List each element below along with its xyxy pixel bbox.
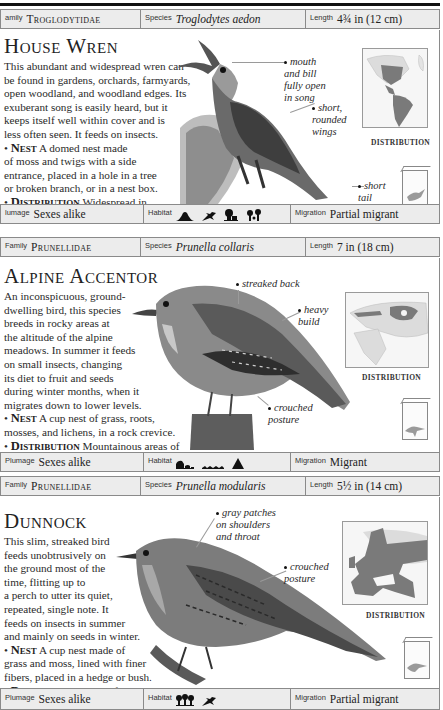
plumage-value: Sexes alike [39, 693, 91, 705]
length-value: 5½ in (14 cm) [337, 480, 402, 492]
migration-cell: Migration Migrant [291, 453, 439, 471]
field-guide-book-icon [404, 641, 430, 679]
habitat-cell: Habitat [144, 453, 291, 471]
migration-label: Migration [295, 693, 326, 702]
field-guide-book-icon [402, 170, 428, 208]
nest-label: Nest [11, 643, 37, 657]
family-value: Prunellidae [31, 480, 91, 492]
entry-alpine-accentor: Alpine Accentor An inconspicuous, ground… [0, 258, 440, 452]
species-value: Prunella modularis [176, 480, 266, 492]
migration-cell: Migration Partial migrant [291, 205, 439, 223]
top-rule [0, 3, 440, 6]
grassland-icon [202, 463, 224, 469]
family-label: Family [5, 480, 27, 489]
migration-value: Partial migrant [330, 208, 399, 220]
scrub-icon [202, 211, 216, 221]
entry-header-dunnock: Family Prunellidae Species Prunella modu… [0, 476, 440, 496]
callout-heavy-build: heavy build [298, 304, 328, 328]
family-label: Family [5, 241, 27, 250]
length-value: 4¾ in (12 cm) [337, 13, 402, 25]
family-cell: Family Prunellidae [1, 238, 141, 256]
species-cell: Species Troglodytes aedon [141, 10, 306, 28]
habitat-label: Habitat [148, 456, 172, 465]
callout-tail: short tail [358, 180, 386, 204]
length-label: Length [310, 480, 333, 489]
species-value: Troglodytes aedon [176, 13, 261, 25]
distribution-map-americas [362, 48, 428, 128]
distribution-label: DISTRIBUTION [366, 611, 425, 620]
woodland-edge-icon [246, 209, 262, 221]
habitat-label: Habitat [148, 693, 172, 702]
field-guide-book-icon [402, 402, 428, 440]
plumage-value: Sexes alike [34, 208, 86, 220]
distribution-map-eurasia-africa [345, 292, 429, 368]
migration-label: Migration [295, 208, 326, 217]
migration-value: Migrant [330, 456, 367, 468]
entry-footer-house-wren: lumage Sexes alike Habitat Migration Par… [0, 204, 440, 224]
scrub-icon [202, 696, 216, 706]
habitat-cell: Habitat [144, 205, 291, 223]
farmland-icon [224, 209, 238, 221]
distribution-label: DISTRIBUTION [362, 373, 421, 382]
woodland-icon [176, 694, 194, 706]
migration-label: Migration [295, 456, 326, 465]
plumage-cell: Plumage Sexes alike [1, 689, 144, 709]
mountain-peak-icon [232, 458, 244, 469]
plumage-cell: lumage Sexes alike [1, 205, 144, 223]
migration-cell: Migration Partial migrant [291, 689, 439, 709]
habitat-cell: Habitat [144, 689, 291, 709]
length-label: Length [310, 13, 333, 22]
plumage-label: Plumage [5, 456, 35, 465]
species-value: Prunella collaris [176, 241, 254, 253]
entry-house-wren: House Wren This abundant and widespread … [0, 30, 440, 204]
species-cell: Species Prunella modularis [141, 477, 306, 495]
entry-header-alpine-accentor: Family Prunellidae Species Prunella coll… [0, 237, 440, 257]
family-cell: Family Prunellidae [1, 477, 141, 495]
species-title: House Wren [4, 34, 118, 59]
nest-label: Nest [11, 411, 37, 425]
rocky-icon [176, 460, 194, 469]
distribution-label: Distribution [11, 439, 80, 453]
callout-gray-patches: gray patches on shoulders and throat [216, 507, 276, 543]
species-label: Species [145, 13, 172, 22]
length-cell: Length 7 in (18 cm) [306, 238, 439, 256]
species-title: Dunnock [4, 509, 87, 534]
family-label: amily [5, 13, 23, 22]
callout-wings: short, rounded wings [312, 102, 347, 138]
alpine-accentor-illustration [132, 274, 358, 450]
species-label: Species [145, 241, 172, 250]
callout-crouched-posture: crouched posture [284, 561, 329, 585]
nest-label: Nest [11, 141, 37, 155]
species-label: Species [145, 480, 172, 489]
mountain-icon [176, 211, 194, 221]
distribution-map-europe [342, 521, 428, 605]
plumage-label: Plumage [5, 693, 35, 702]
nest-line: A domed nest made [39, 142, 128, 154]
length-value: 7 in (18 cm) [337, 241, 394, 253]
plumage-value: Sexes alike [39, 456, 91, 468]
nest-line: A cup nest made of [39, 644, 125, 656]
entry-footer-dunnock: Plumage Sexes alike Habitat Migration Pa… [0, 688, 440, 710]
entry-footer-alpine-accentor: Plumage Sexes alike Habitat Migration Mi… [0, 452, 440, 472]
callout-leader [238, 290, 239, 304]
species-cell: Species Prunella collaris [141, 238, 306, 256]
family-cell: amily Troglodytidae [1, 10, 141, 28]
entry-header-house-wren: amily Troglodytidae Species Troglodytes … [0, 9, 440, 29]
callout-mouth-bill: mouth and bill fully open in song [284, 56, 326, 104]
length-cell: Length 4¾ in (12 cm) [306, 10, 439, 28]
distribution-label: DISTRIBUTION [371, 138, 430, 147]
plumage-cell: Plumage Sexes alike [1, 453, 144, 471]
migration-value: Partial migrant [330, 693, 399, 705]
entry-dunnock: Dunnock This slim, streaked bird feeds u… [0, 497, 440, 688]
habitat-label: Habitat [148, 208, 172, 217]
plumage-label: lumage [5, 208, 30, 217]
callout-crouched-posture: crouched posture [268, 402, 313, 426]
length-cell: Length 5½ in (14 cm) [306, 477, 439, 495]
family-value: Prunellidae [31, 241, 91, 253]
length-label: Length [310, 241, 333, 250]
callout-leader [232, 62, 284, 63]
callout-streaked-back: streaked back [236, 278, 300, 290]
family-value: Troglodytidae [27, 13, 101, 25]
